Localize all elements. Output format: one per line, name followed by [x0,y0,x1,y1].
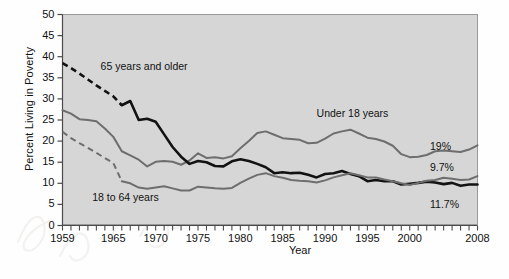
x-tick-2008: 2008 [451,232,505,244]
end-label-19-percent: 19% [430,140,451,152]
y-tick-0: 0 [29,219,55,231]
x-axis-title: Year [240,244,360,256]
annotation-under-18-years: Under 18 years [317,107,389,119]
series-under-18-years [63,110,478,166]
x-tick-2000: 2000 [383,232,437,244]
poverty-rate-figure: 50454035302520151050 1959196519701975198… [0,0,509,279]
annotation-18-to-64-years: 18 to 64 years [92,191,159,203]
y-tick-5: 5 [29,197,55,209]
series-65-years-and-older [63,63,478,186]
x-tick-1959: 1959 [36,232,90,244]
end-label-97-percent: 9.7% [430,161,454,173]
y-tick-50: 50 [29,8,55,20]
end-label-117-percent: 11.7% [430,198,459,210]
series-18-to-64-years [63,132,478,191]
data-series-group [63,63,478,190]
y-axis-title: Percent Living in Poverty [23,24,35,194]
annotation-65-years-and-older: 65 years and older [101,60,188,72]
